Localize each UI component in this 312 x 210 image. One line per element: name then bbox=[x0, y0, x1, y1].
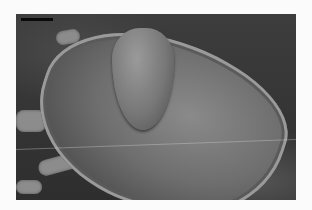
scale-bar bbox=[21, 18, 53, 21]
micrograph bbox=[16, 14, 296, 200]
mite-leg bbox=[16, 180, 42, 194]
